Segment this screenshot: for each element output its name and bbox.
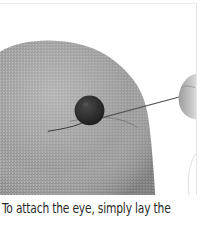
bead-eye xyxy=(75,96,105,126)
instruction-photo xyxy=(0,3,197,195)
hand-fingertip xyxy=(179,74,196,195)
caption-text: To attach the eye, simply lay the xyxy=(2,199,186,217)
photo-illustration xyxy=(0,4,196,195)
